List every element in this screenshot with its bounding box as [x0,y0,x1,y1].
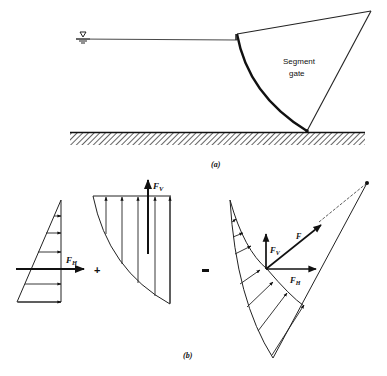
pivot-point [365,181,369,185]
fh-label-right: FH [289,275,301,286]
part-a: Segment gate (a) [70,11,371,169]
plus-sign: + [94,264,100,276]
equals-sign [202,269,209,272]
fv-label-right: FV [269,245,281,256]
caption-a: (a) [211,160,221,169]
gate-label-line1: Segment [283,57,316,66]
horizontal-pressure-diagram [16,200,84,302]
resultant-label: F [295,232,302,241]
resultant-pressure-diagram [230,181,369,358]
vertical-pressure-diagram [93,180,171,304]
segment-gate-diagram: Segment gate (a) FH + [0,0,387,376]
caption-b: (b) [183,351,193,360]
ground-bed [70,133,365,146]
water-surface-line [76,39,237,40]
fv-label-middle: FV [152,181,164,192]
fh-label-left: FH [65,255,78,266]
gate-label-line2: gate [289,69,305,78]
water-surface-icon [76,32,90,43]
part-b: FH + FV [16,180,369,360]
